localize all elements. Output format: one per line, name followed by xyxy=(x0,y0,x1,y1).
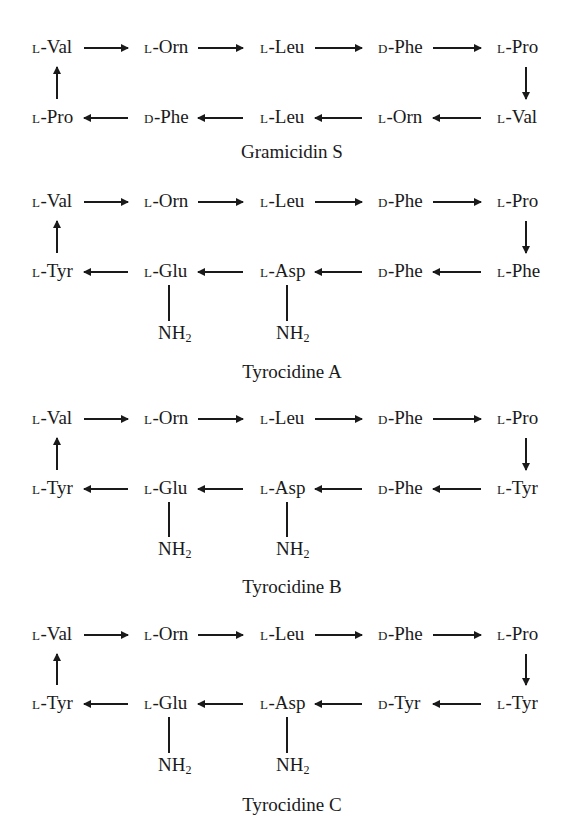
arrow-right-icon xyxy=(433,634,481,636)
residue-bottom: L-Asp xyxy=(260,260,305,284)
stereo-config: D xyxy=(378,628,388,643)
arrow-right-icon xyxy=(315,47,362,49)
residue-name: Pro xyxy=(512,36,538,57)
nh-text: NH xyxy=(276,754,303,775)
residue-top: D-Phe xyxy=(378,407,423,431)
residue-name: Asp xyxy=(275,477,306,498)
peptide-name: Tyrocidine B xyxy=(0,576,584,598)
arrow-right-icon xyxy=(433,47,481,49)
residue-bottom: L-Glu xyxy=(144,260,187,284)
stereo-config: D xyxy=(378,195,388,210)
arrow-right-icon xyxy=(433,418,481,420)
residue-name: Val xyxy=(512,106,537,127)
residue-bottom: L-Pro xyxy=(32,106,73,130)
arrow-right-icon xyxy=(433,201,481,203)
arrow-up-icon xyxy=(56,438,58,470)
residue-name: Phe xyxy=(394,477,423,498)
nh2-label: NH2 xyxy=(276,754,309,781)
arrow-right-icon xyxy=(84,634,128,636)
residue-bottom: D-Phe xyxy=(378,260,423,284)
nh2-label: NH2 xyxy=(276,538,309,565)
subscript: 2 xyxy=(185,547,191,561)
arrow-up-icon xyxy=(56,221,58,253)
residue-name: Val xyxy=(47,190,72,211)
residue-top: L-Pro xyxy=(497,407,538,431)
residue-name: Tyr xyxy=(47,477,73,498)
arrow-left-icon xyxy=(84,117,128,119)
residue-top: L-Leu xyxy=(260,623,304,647)
subscript: 2 xyxy=(303,331,309,345)
residue-name: Orn xyxy=(159,190,189,211)
residue-name: Glu xyxy=(159,477,188,498)
amide-bond xyxy=(168,285,170,321)
arrow-right-icon xyxy=(315,634,362,636)
arrow-left-icon xyxy=(433,117,481,119)
arrow-left-icon xyxy=(433,703,481,705)
arrow-down-icon xyxy=(525,654,527,685)
arrow-up-icon xyxy=(56,654,58,685)
residue-top: L-Val xyxy=(32,36,72,60)
nh2-label: NH2 xyxy=(158,322,191,349)
arrow-right-icon xyxy=(198,47,243,49)
stereo-config: D xyxy=(378,265,388,280)
residue-name: Leu xyxy=(275,623,305,644)
residue-top: L-Val xyxy=(32,407,72,431)
stereo-config: D xyxy=(144,111,154,126)
residue-name: Tyr xyxy=(512,477,538,498)
residue-name: Tyr xyxy=(512,692,538,713)
residue-name: Pro xyxy=(47,106,73,127)
residue-name: Tyr xyxy=(394,692,420,713)
residue-name: Leu xyxy=(275,106,305,127)
arrow-left-icon xyxy=(84,488,128,490)
arrow-up-icon xyxy=(56,67,58,99)
arrow-left-icon xyxy=(84,271,128,273)
stereo-config: D xyxy=(378,482,388,497)
peptide-name: Gramicidin S xyxy=(0,141,584,163)
nh-text: NH xyxy=(158,538,185,559)
residue-bottom: L-Glu xyxy=(144,477,187,501)
nh2-label: NH2 xyxy=(158,754,191,781)
residue-name: Orn xyxy=(159,407,189,428)
residue-name: Orn xyxy=(159,36,189,57)
arrow-left-icon xyxy=(198,488,243,490)
residue-name: Orn xyxy=(393,106,423,127)
arrow-down-icon xyxy=(525,221,527,253)
arrow-right-icon xyxy=(198,418,243,420)
residue-bottom: L-Tyr xyxy=(32,692,73,716)
residue-name: Leu xyxy=(275,36,305,57)
peptide-name: Tyrocidine C xyxy=(0,794,584,816)
arrow-left-icon xyxy=(315,488,362,490)
residue-bottom: L-Glu xyxy=(144,692,187,716)
arrow-right-icon xyxy=(315,418,362,420)
residue-name: Pro xyxy=(512,407,538,428)
residue-bottom: L-Val xyxy=(497,106,537,130)
arrow-down-icon xyxy=(525,438,527,470)
residue-bottom: D-Tyr xyxy=(378,692,420,716)
stereo-config: D xyxy=(378,697,388,712)
residue-bottom: L-Tyr xyxy=(497,692,538,716)
residue-name: Leu xyxy=(275,407,305,428)
residue-name: Asp xyxy=(275,260,306,281)
nh-text: NH xyxy=(276,322,303,343)
subscript: 2 xyxy=(303,763,309,777)
nh-text: NH xyxy=(276,538,303,559)
residue-name: Phe xyxy=(160,106,189,127)
arrow-right-icon xyxy=(84,418,128,420)
residue-top: L-Pro xyxy=(497,36,538,60)
residue-bottom: L-Phe xyxy=(497,260,540,284)
residue-top: D-Phe xyxy=(378,623,423,647)
amide-bond xyxy=(286,717,288,753)
residue-top: D-Phe xyxy=(378,190,423,214)
amide-bond xyxy=(286,285,288,321)
arrow-left-icon xyxy=(433,488,481,490)
arrow-left-icon xyxy=(198,271,243,273)
residue-name: Asp xyxy=(275,692,306,713)
residue-name: Phe xyxy=(394,623,423,644)
arrow-right-icon xyxy=(198,201,243,203)
residue-top: L-Val xyxy=(32,623,72,647)
residue-name: Orn xyxy=(159,623,189,644)
residue-name: Phe xyxy=(394,260,423,281)
residue-name: Phe xyxy=(394,407,423,428)
residue-top: L-Orn xyxy=(144,407,188,431)
arrow-left-icon xyxy=(315,703,362,705)
